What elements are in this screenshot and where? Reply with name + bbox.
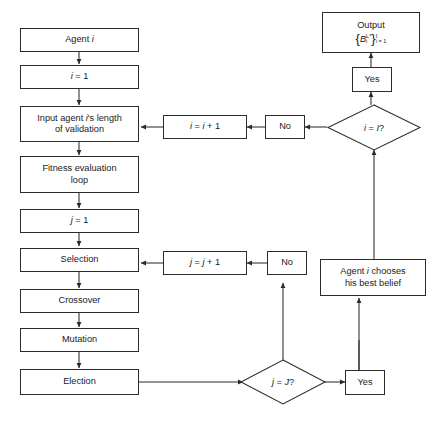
node-i-increment-label: i = i + 1 (188, 121, 222, 133)
node-i-init-label: i = 1 (69, 71, 91, 83)
node-best-belief: Agent i chooseshis best belief (320, 259, 426, 296)
node-input-length-label: Input agent i's lengthof validation (35, 113, 124, 136)
node-decide-j: j = J? (241, 360, 325, 404)
node-yes-inner: Yes (345, 370, 385, 395)
node-no-inner: No (267, 251, 307, 275)
node-yes-outer-label: Yes (363, 74, 382, 86)
node-mutation: Mutation (20, 328, 139, 352)
node-selection: Selection (20, 248, 139, 272)
node-j-init: j = 1 (20, 209, 139, 233)
node-no-inner-label: No (279, 257, 295, 269)
node-i-init: i = 1 (20, 65, 139, 89)
node-i-increment: i = i + 1 (163, 115, 247, 139)
node-crossover: Crossover (20, 289, 139, 313)
node-agent-i: Agent i (20, 28, 139, 52)
node-mutation-label: Mutation (60, 334, 99, 346)
node-selection-label: Selection (59, 254, 101, 266)
node-no-outer-label: No (277, 121, 293, 133)
node-j-init-label: j = 1 (69, 215, 91, 227)
node-election: Election (20, 369, 139, 395)
output-formula-lower-limit: i = 1 (376, 39, 387, 45)
node-election-label: Election (61, 376, 98, 388)
output-formula: {BL*i}Ii = 1 (356, 33, 387, 45)
node-decide-j-label: j = J? (241, 360, 325, 404)
node-decide-i-label: i = I? (328, 105, 420, 150)
node-j-increment-label: j = j + 1 (188, 257, 222, 269)
node-yes-outer: Yes (352, 67, 392, 92)
node-j-increment: j = j + 1 (163, 251, 247, 275)
node-input-length: Input agent i's lengthof validation (20, 106, 139, 142)
node-crossover-label: Crossover (57, 295, 103, 307)
node-fitness-loop-label: Fitness evaluationloop (40, 163, 118, 186)
node-output: Output {BL*i}Ii = 1 (322, 12, 420, 53)
node-yes-inner-label: Yes (356, 377, 375, 389)
node-no-outer: No (265, 115, 305, 139)
node-decide-i: i = I? (328, 105, 420, 150)
node-fitness-loop: Fitness evaluationloop (20, 156, 139, 193)
node-best-belief-label: Agent i chooseshis best belief (338, 266, 407, 289)
flowchart-diagram: Agent i i = 1 Input agent i's lengthof v… (0, 0, 429, 431)
node-agent-i-label: Agent i (63, 34, 96, 46)
